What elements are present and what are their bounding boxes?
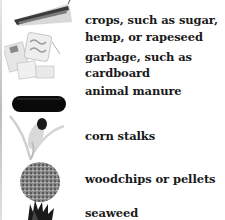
item-label-line1: woodchips or pellets — [85, 171, 215, 187]
sugarcane-knife-icon — [12, 0, 72, 30]
item-label-line1: corn stalks — [85, 128, 155, 144]
corn-stalk-icon — [6, 112, 66, 162]
item-label-line1: animal manure — [85, 83, 182, 99]
item-label-line1: crops, such as sugar, — [85, 12, 218, 28]
item-label-line1: garbage, such as — [85, 49, 192, 65]
seaweed-icon — [22, 200, 58, 220]
item-label-line2: cardboard — [85, 65, 150, 81]
manure-icon — [11, 94, 67, 114]
page-edge-divider — [0, 0, 2, 220]
item-label-line1: seaweed — [85, 205, 138, 220]
woodchips-pile-icon — [18, 160, 62, 204]
item-label-line2: hemp, or rapeseed — [85, 29, 203, 45]
cardboard-pieces-icon — [4, 32, 62, 80]
biomass-sources-list: crops, such as sugar, hemp, or rapeseed … — [0, 0, 225, 220]
